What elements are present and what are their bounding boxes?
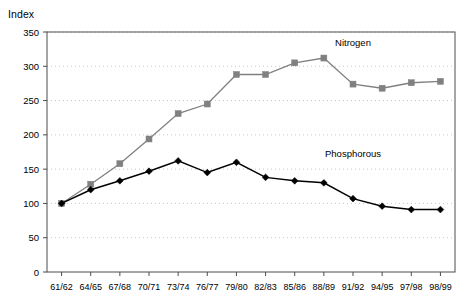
- data-point-nitrogen: [437, 78, 443, 84]
- x-tick-label: 76/77: [196, 282, 219, 292]
- data-point-nitrogen: [117, 161, 123, 167]
- y-tick-label: 0: [34, 267, 39, 278]
- x-tick-label: 79/80: [225, 282, 248, 292]
- series-lines: [58, 55, 444, 213]
- y-tick-label: 350: [23, 27, 39, 38]
- data-point-nitrogen: [146, 136, 152, 142]
- y-tick-label: 300: [23, 61, 39, 72]
- data-point-phosphorous: [116, 177, 123, 184]
- data-point-nitrogen: [204, 101, 210, 107]
- x-axis-ticks: 61/6264/6567/6870/7173/7476/7779/8082/83…: [50, 272, 451, 292]
- y-tick-label: 100: [23, 198, 39, 209]
- data-point-phosphorous: [233, 159, 240, 166]
- x-tick-label: 70/71: [138, 282, 161, 292]
- data-point-phosphorous: [175, 158, 182, 165]
- series-annotation-phosphorous: Phosphorous: [325, 148, 381, 159]
- x-tick-label: 64/65: [79, 282, 102, 292]
- x-tick-label: 97/98: [400, 282, 423, 292]
- data-point-nitrogen: [292, 60, 298, 66]
- y-tick-label: 200: [23, 129, 39, 140]
- series-annotation-nitrogen: Nitrogen: [335, 37, 371, 48]
- x-tick-label: 73/74: [167, 282, 190, 292]
- data-point-nitrogen: [263, 72, 269, 78]
- data-point-nitrogen: [350, 81, 356, 87]
- series-line-phosphorous: [62, 161, 441, 210]
- data-point-phosphorous: [350, 195, 357, 202]
- data-point-phosphorous: [291, 177, 298, 184]
- plot-frame: [47, 32, 455, 272]
- x-tick-label: 61/62: [50, 282, 73, 292]
- plot-border: [47, 32, 455, 272]
- y-tick-label: 150: [23, 164, 39, 175]
- data-point-phosphorous: [437, 206, 444, 213]
- x-tick-label: 91/92: [342, 282, 365, 292]
- data-point-nitrogen: [233, 72, 239, 78]
- data-point-phosphorous: [262, 174, 269, 181]
- data-point-nitrogen: [321, 55, 327, 61]
- data-point-phosphorous: [408, 206, 415, 213]
- data-point-nitrogen: [379, 85, 385, 91]
- data-point-phosphorous: [204, 169, 211, 176]
- x-tick-label: 82/83: [254, 282, 277, 292]
- x-tick-label: 67/68: [109, 282, 132, 292]
- data-point-nitrogen: [408, 80, 414, 86]
- x-tick-label: 94/95: [371, 282, 394, 292]
- x-tick-label: 85/86: [283, 282, 306, 292]
- x-tick-label: 98/99: [429, 282, 452, 292]
- chart-plot: 050100150200250300350 61/6264/6567/6870/…: [0, 0, 464, 302]
- y-tick-label: 50: [28, 232, 39, 243]
- y-tick-label: 250: [23, 95, 39, 106]
- data-point-phosphorous: [320, 179, 327, 186]
- chart-container: Index 050100150200250300350 61/6264/6567…: [0, 0, 464, 302]
- series-annotations: NitrogenPhosphorous: [325, 37, 381, 159]
- data-point-nitrogen: [175, 111, 181, 117]
- x-tick-label: 88/89: [313, 282, 336, 292]
- y-axis-ticks: 050100150200250300350: [23, 27, 47, 278]
